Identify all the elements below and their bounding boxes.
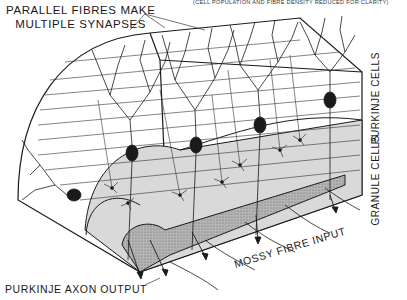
axon-output-leader bbox=[145, 278, 160, 285]
parallel-fibres-label: PARALLEL FIBRES MAKE MULTIPLE SYNAPSES bbox=[6, 3, 155, 31]
purkinje-cells-label: PURKINJE CELLS bbox=[369, 52, 382, 144]
clarity-note: (CELL POPULATION AND FIBRE DENSITY REDUC… bbox=[193, 0, 389, 5]
cerebellar-cortex-diagram: PARALLEL FIBRES MAKE MULTIPLE SYNAPSES (… bbox=[0, 0, 407, 300]
title-line-1: PARALLEL FIBRES MAKE bbox=[6, 3, 155, 17]
diagram-illustration bbox=[0, 0, 407, 300]
purkinje-axon-output-label: PURKINJE AXON OUTPUT bbox=[5, 283, 147, 295]
granule-cells-label: GRANULE CELLS bbox=[369, 135, 382, 226]
title-line-2: MULTIPLE SYNAPSES bbox=[6, 17, 155, 31]
